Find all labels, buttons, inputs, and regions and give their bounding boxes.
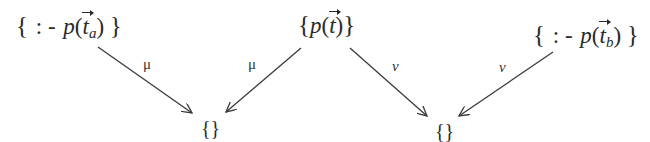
center-clause-node: {p(t)} — [298, 12, 355, 37]
left-paren: ( — [322, 13, 330, 38]
open-brace: { — [533, 21, 545, 48]
neck-operator: : - — [551, 23, 575, 48]
empty-clause-1: {} — [201, 118, 220, 138]
open-brace: { — [298, 11, 310, 38]
edge-label-mu-left: μ — [143, 57, 151, 72]
right-clause-node: { : - p(tb) } — [533, 22, 639, 47]
neck-operator: : - — [34, 14, 58, 39]
vector-variable: t — [82, 15, 88, 38]
right-paren: ) — [613, 23, 621, 48]
edge-center-to-empty2 — [350, 48, 427, 116]
vector-variable: t — [329, 14, 335, 37]
edge-label-mu-right: μ — [248, 57, 256, 72]
left-paren: ( — [75, 14, 83, 39]
predicate: p — [310, 13, 322, 38]
resolution-diagram: { : - p(ta) } {p(t)} { : - p(tb) } {} {}… — [0, 0, 650, 142]
right-paren: ) — [96, 14, 104, 39]
edge-label-nu-left: ν — [392, 59, 399, 74]
vector-variable: t — [599, 24, 605, 47]
open-brace: { — [16, 12, 28, 39]
empty-clause-2: {} — [435, 121, 454, 141]
close-brace: } — [110, 12, 122, 39]
left-paren: ( — [592, 23, 600, 48]
predicate: p — [580, 23, 592, 48]
predicate: p — [63, 14, 75, 39]
close-brace: } — [343, 11, 355, 38]
edge-center-to-empty1 — [226, 48, 301, 112]
edge-label-nu-right: ν — [499, 60, 506, 75]
left-clause-node: { : - p(ta) } — [16, 13, 122, 38]
close-brace: } — [627, 21, 639, 48]
edge-right-to-empty2 — [459, 52, 553, 116]
